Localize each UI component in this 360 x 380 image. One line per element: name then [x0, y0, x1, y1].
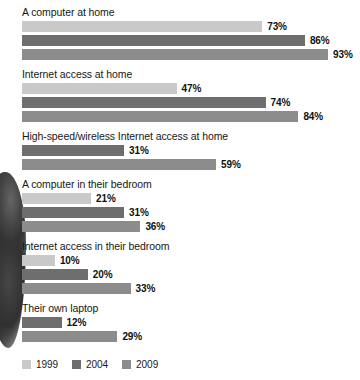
chart-group: A computer at home73%86%93% — [0, 6, 360, 60]
bar-row: 31% — [0, 207, 360, 218]
bar-1999 — [22, 193, 91, 204]
bar-row: 47% — [0, 83, 360, 94]
bar-2004 — [22, 35, 305, 46]
bar-row: 31% — [0, 145, 360, 156]
chart-group: A computer in their bedroom21%31%36% — [0, 178, 360, 232]
bar-row: 21% — [0, 193, 360, 204]
chart-group: High-speed/wireless Internet access at h… — [0, 130, 360, 170]
chart-group: Their own laptop12%29% — [0, 302, 360, 342]
bar-1999 — [22, 83, 177, 94]
bar-2004 — [22, 269, 88, 280]
chart-groups: A computer at home73%86%93%Internet acce… — [0, 0, 360, 342]
bar-value-label: 29% — [122, 331, 142, 342]
group-label: A computer at home — [0, 6, 360, 19]
legend-swatch-icon — [72, 360, 81, 369]
bar-value-label: 47% — [182, 83, 202, 94]
bar-row: 33% — [0, 283, 360, 294]
bar-value-label: 31% — [129, 145, 149, 156]
bar-row: 84% — [0, 111, 360, 122]
bar-row: 93% — [0, 49, 360, 60]
bar-value-label: 10% — [60, 255, 80, 266]
bar-value-label: 33% — [136, 283, 156, 294]
bar-2009 — [22, 111, 298, 122]
bar-row: 29% — [0, 331, 360, 342]
legend-swatch-icon — [22, 360, 31, 369]
bar-value-label: 31% — [129, 207, 149, 218]
bar-2004 — [22, 207, 124, 218]
bar-value-label: 36% — [145, 221, 165, 232]
bar-chart: A computer at home73%86%93%Internet acce… — [0, 0, 360, 380]
bar-row: 10% — [0, 255, 360, 266]
bar-row: 73% — [0, 21, 360, 32]
group-label: A computer in their bedroom — [0, 178, 360, 191]
bar-2004 — [22, 145, 124, 156]
bar-value-label: 21% — [96, 193, 116, 204]
bar-2009 — [22, 159, 216, 170]
legend-item-2004[interactable]: 2004 — [72, 359, 108, 370]
group-label: High-speed/wireless Internet access at h… — [0, 130, 360, 143]
bar-2009 — [22, 221, 140, 232]
bar-value-label: 73% — [267, 21, 287, 32]
chart-group: Internet access in their bedroom10%20%33… — [0, 240, 360, 294]
bar-2009 — [22, 283, 131, 294]
group-label: Internet access at home — [0, 68, 360, 81]
bar-value-label: 86% — [310, 35, 330, 46]
legend-swatch-icon — [122, 360, 131, 369]
bar-row: 20% — [0, 269, 360, 280]
legend-label: 1999 — [36, 359, 58, 370]
bar-2009 — [22, 49, 328, 60]
bar-value-label: 12% — [67, 317, 87, 328]
chart-group: Internet access at home47%74%84% — [0, 68, 360, 122]
bar-2004 — [22, 317, 62, 328]
bar-row: 12% — [0, 317, 360, 328]
group-label: Internet access in their bedroom — [0, 240, 360, 253]
legend-item-1999[interactable]: 1999 — [22, 359, 58, 370]
group-label: Their own laptop — [0, 302, 360, 315]
bar-value-label: 59% — [221, 159, 241, 170]
bar-row: 59% — [0, 159, 360, 170]
bar-2004 — [22, 97, 266, 108]
bar-row: 86% — [0, 35, 360, 46]
legend-item-2009[interactable]: 2009 — [122, 359, 158, 370]
bar-value-label: 84% — [303, 111, 323, 122]
legend-label: 2009 — [136, 359, 158, 370]
bar-1999 — [22, 21, 262, 32]
bar-2009 — [22, 331, 117, 342]
bar-row: 36% — [0, 221, 360, 232]
bar-value-label: 74% — [271, 97, 291, 108]
legend-label: 2004 — [86, 359, 108, 370]
bar-row: 74% — [0, 97, 360, 108]
bar-1999 — [22, 255, 55, 266]
chart-legend: 199920042009 — [22, 359, 158, 370]
bar-value-label: 93% — [333, 49, 353, 60]
bar-value-label: 20% — [93, 269, 113, 280]
